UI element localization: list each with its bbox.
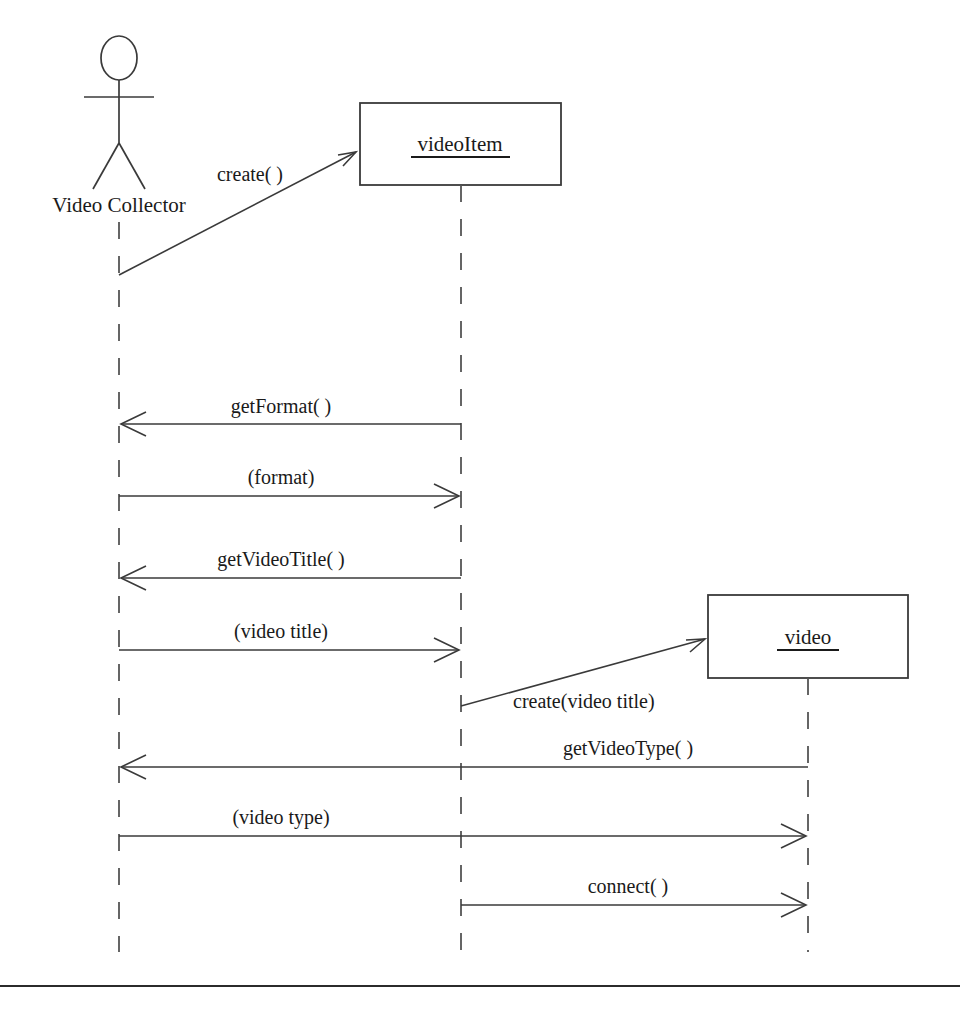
message-video-title-return[interactable]: (video title)	[119, 620, 459, 662]
message-label-create-video-title: create(video title)	[513, 690, 655, 713]
participant-actor-video-collector[interactable]: Video Collector	[52, 36, 185, 952]
message-label-connect: connect( )	[588, 875, 669, 898]
message-getvideotype[interactable]: getVideoType( )	[121, 737, 808, 779]
message-arrowhead-create	[338, 152, 356, 166]
message-label-format-return: (format)	[248, 466, 315, 489]
object-label-video: video	[785, 625, 832, 649]
message-label-create: create( )	[217, 163, 283, 186]
message-getvideotitle[interactable]: getVideoTitle( )	[121, 548, 461, 590]
object-label-videoitem: videoItem	[417, 132, 502, 156]
message-label-getvideotitle: getVideoTitle( )	[217, 548, 345, 571]
message-create-video-title[interactable]: create(video title)	[461, 639, 705, 713]
actor-stick-figure-icon	[84, 36, 154, 189]
message-video-type-return[interactable]: (video type)	[119, 806, 806, 848]
message-label-getformat: getFormat( )	[231, 395, 332, 418]
actor-label-video-collector: Video Collector	[52, 193, 185, 217]
message-label-video-type-return: (video type)	[232, 806, 329, 829]
participant-object-videoitem[interactable]: videoItem	[360, 103, 561, 952]
message-format-return[interactable]: (format)	[119, 466, 459, 508]
message-connect[interactable]: connect( )	[461, 875, 806, 917]
sequence-diagram-canvas: Video Collector videoItem video create( …	[0, 0, 960, 1009]
message-getformat[interactable]: getFormat( )	[121, 395, 461, 436]
message-label-video-title-return: (video title)	[234, 620, 328, 643]
participant-object-video[interactable]: video	[708, 595, 908, 952]
message-label-getvideotype: getVideoType( )	[563, 737, 693, 760]
